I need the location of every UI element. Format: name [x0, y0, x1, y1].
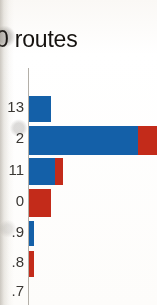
bar-segment-red [55, 158, 63, 185]
y-axis-tick-label: 0 [0, 193, 24, 209]
bar-row [29, 251, 34, 277]
bar-segment-red [29, 189, 51, 217]
bar-segment-blue [29, 221, 34, 246]
bar-segment-red [138, 126, 157, 155]
y-axis-tick-label: 2 [0, 130, 24, 146]
bar-segment-blue [29, 126, 138, 155]
bar-row [29, 189, 51, 217]
chart-figure: 0 routes 132110.9.8.7 [0, 0, 157, 305]
y-axis-tick-label: .7 [0, 283, 24, 299]
bar-row [29, 158, 63, 185]
bar-segment-blue [29, 96, 51, 122]
chart-title: 0 routes [0, 26, 78, 53]
y-axis-tick-label: .9 [0, 224, 24, 240]
bar-row [29, 96, 51, 122]
y-axis-tick-label: 11 [0, 162, 24, 178]
y-axis-tick-label: 13 [0, 99, 24, 115]
bar-row [29, 221, 34, 246]
bar-segment-blue [29, 158, 55, 185]
bar-row [29, 126, 157, 155]
y-axis-tick-label: .8 [0, 254, 24, 270]
bar-segment-red [29, 251, 34, 277]
